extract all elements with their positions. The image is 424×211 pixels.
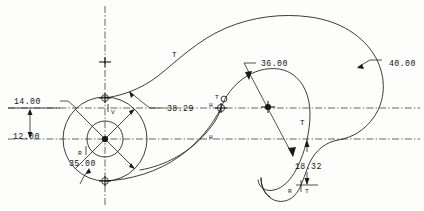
- marker-label-t-mid: T: [215, 94, 219, 101]
- marker-label-v-hub: V: [111, 109, 115, 116]
- dimension-label-3829: 38.29: [167, 104, 194, 113]
- dimension-label-rt-tangent: T: [305, 188, 309, 195]
- marker-label-t-right: T: [300, 119, 305, 127]
- dimension-label-rt-prefix: R: [288, 188, 292, 195]
- cad-drawing-canvas: 14.00 12.00 38.29 R 35.00 36.00 40.00 18…: [0, 0, 424, 211]
- marker-label-h-mid: H: [209, 102, 213, 109]
- marker-label-t-top: T: [172, 51, 177, 59]
- dimension-label-r35-prefix: R: [78, 150, 82, 157]
- dimension-label-3600: 36.00: [261, 59, 288, 68]
- dimension-label-4000: 40.00: [389, 59, 416, 68]
- dimension-label-12: 12.00: [13, 132, 40, 141]
- cad-text-layer: 14.00 12.00 38.29 R 35.00 36.00 40.00 18…: [0, 0, 424, 211]
- dimension-label-1832: 18.32: [295, 162, 322, 171]
- dimension-label-14: 14.00: [14, 97, 41, 106]
- marker-label-h-low: H: [209, 134, 213, 141]
- dimension-label-3500: 35.00: [69, 159, 96, 168]
